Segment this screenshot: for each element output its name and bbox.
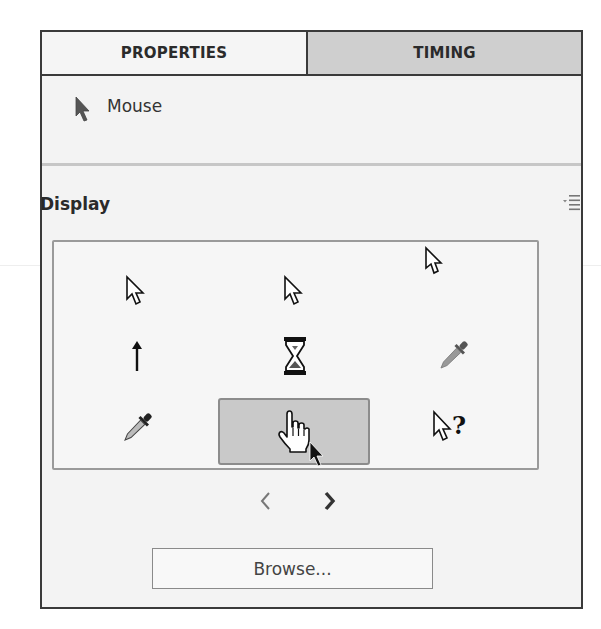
help-cursor-icon: ?: [431, 409, 475, 447]
chevron-left-icon: [258, 490, 272, 512]
arrow-cursor-icon: [125, 275, 149, 309]
cursor-option-hourglass[interactable]: [220, 324, 370, 388]
up-arrow-cursor-icon: [130, 339, 144, 373]
display-section-heading: Display: [42, 194, 112, 214]
chevron-right-icon: [323, 490, 337, 512]
section-divider: [42, 163, 581, 166]
cursor-option-hand-pointer[interactable]: [218, 398, 370, 465]
cursor-option-arrow[interactable]: [62, 260, 212, 324]
cursor-option-arrow-alt[interactable]: [220, 260, 370, 324]
mouse-pointer-icon: [74, 96, 94, 122]
panel-menu-button[interactable]: [560, 192, 582, 214]
hourglass-cursor-icon: [282, 336, 308, 376]
arrow-cursor-icon: [283, 275, 307, 309]
cursor-option-empty[interactable]: [378, 260, 528, 324]
cursor-option-eyedropper[interactable]: [378, 324, 528, 388]
previous-page-button[interactable]: [255, 488, 275, 514]
next-page-button[interactable]: [320, 488, 340, 514]
tab-timing[interactable]: TIMING: [308, 32, 581, 74]
object-header: Mouse: [42, 76, 581, 164]
properties-panel: PROPERTIES TIMING Mouse Display: [40, 30, 583, 609]
cursor-option-eyedropper-dark[interactable]: [62, 396, 212, 460]
display-heading-text: Display: [40, 194, 110, 214]
eyedropper-dark-cursor-icon: [120, 411, 154, 445]
hand-pointer-cursor-icon: [276, 410, 312, 454]
cursor-option-help[interactable]: ?: [378, 396, 528, 460]
cursor-picker-grid: ?: [52, 240, 539, 470]
cursor-option-up-arrow[interactable]: [62, 324, 212, 388]
eyedropper-cursor-icon: [436, 339, 470, 373]
svg-text:?: ?: [452, 411, 466, 440]
browse-button[interactable]: Browse...: [152, 548, 433, 589]
tab-bar: PROPERTIES TIMING: [42, 32, 581, 76]
panel-menu-icon: [560, 192, 582, 214]
tab-properties[interactable]: PROPERTIES: [42, 32, 308, 74]
object-name: Mouse: [107, 96, 162, 116]
